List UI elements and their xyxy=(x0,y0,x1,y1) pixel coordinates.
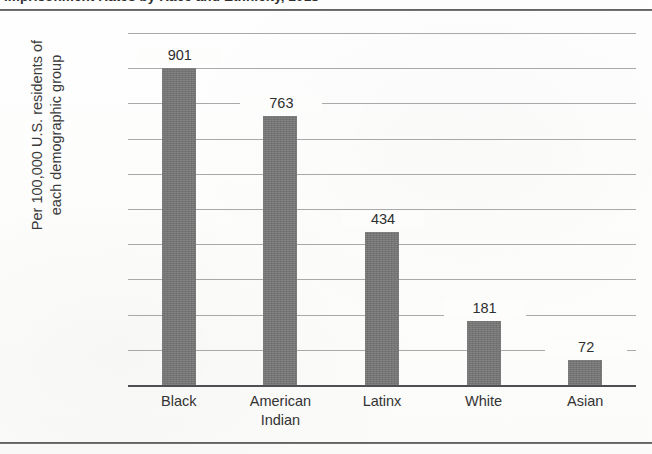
gridline xyxy=(128,139,636,140)
clipped-figure-caption: Imprisonment Rates by Race and Ethnicity… xyxy=(0,0,652,7)
bar-value-label: 434 xyxy=(342,211,424,227)
y-axis-title-line-1: Per 100,000 U.S. residents of xyxy=(28,0,47,300)
bar xyxy=(365,232,399,385)
gridline xyxy=(128,174,636,175)
bar xyxy=(162,68,196,385)
bar-value-label: 181 xyxy=(444,300,526,316)
bar xyxy=(263,116,297,385)
y-axis-title: Per 100,000 U.S. residents of each demog… xyxy=(28,0,66,300)
gridline xyxy=(128,33,636,34)
category-label-line: Indian xyxy=(215,411,345,430)
gridline xyxy=(128,209,636,210)
category-label-line: Asian xyxy=(520,392,650,411)
bar-value-label: 763 xyxy=(240,95,322,111)
gridline xyxy=(128,103,636,104)
x-axis-line xyxy=(128,385,636,387)
bar xyxy=(467,321,501,385)
figure-top-rule xyxy=(0,9,652,11)
bar xyxy=(568,360,602,385)
bar-value-label: 72 xyxy=(545,339,627,355)
bar-value-label: 901 xyxy=(139,47,221,63)
y-axis-title-line-2: each demographic group xyxy=(47,0,66,300)
plot-area: 1,0009008007006005004003002001000 901763… xyxy=(128,33,636,385)
figure-bottom-rule xyxy=(0,442,652,444)
gridline xyxy=(128,68,636,69)
x-axis-category-label: Asian xyxy=(520,392,650,411)
